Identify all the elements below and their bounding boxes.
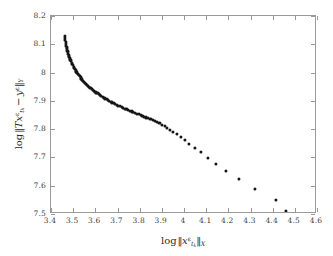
x-tick-label-4: 3.8 (132, 216, 145, 225)
y-axis-title-math: log‖Txεtk−yε‖Y (13, 79, 24, 150)
data-point (188, 142, 191, 145)
data-point (285, 209, 288, 212)
y-tick-label-1: 8.1 (33, 39, 46, 48)
x-tick-top-12 (317, 16, 318, 20)
data-point (183, 138, 186, 141)
x-tick-label-3: 3.7 (110, 216, 123, 225)
data-point (274, 198, 277, 201)
y-tick-label-6: 7.6 (33, 180, 46, 189)
x-tick-label-7: 4.1 (199, 216, 212, 225)
scatter-series-l-curve (51, 16, 315, 212)
x-tick-label-5: 3.9 (155, 216, 168, 225)
x-tick-label-0: 3.4 (44, 216, 57, 225)
y-tick-7 (51, 214, 55, 215)
x-tick-label-12: 4.6 (310, 216, 323, 225)
data-point (206, 156, 209, 159)
x-tick-12 (317, 208, 318, 212)
y-axis-title: log‖Txεtk−yε‖Y (7, 79, 26, 150)
data-point (224, 169, 227, 172)
y-tick-label-5: 7.7 (33, 152, 46, 161)
data-point (199, 151, 202, 154)
x-axis-title: log‖xεtk‖X (161, 229, 205, 248)
data-point (253, 187, 256, 190)
x-tick-label-9: 4.3 (243, 216, 256, 225)
x-tick-label-11: 4.5 (288, 216, 301, 225)
figure-canvas: 8.28.187.97.87.77.67.5 3.43.53.63.73.83.… (0, 0, 333, 256)
data-point (193, 146, 196, 149)
x-tick-label-2: 3.6 (88, 216, 101, 225)
y-tick-right-7 (311, 214, 315, 215)
y-tick-label-2: 8 (41, 67, 46, 76)
plot-area (50, 15, 316, 213)
x-tick-label-6: 4 (181, 216, 186, 225)
data-point (237, 177, 240, 180)
y-tick-label-0: 8.2 (33, 11, 46, 20)
x-axis-title-math: log‖xεtk‖X (161, 235, 205, 246)
x-tick-label-1: 3.5 (66, 216, 79, 225)
x-tick-label-8: 4.2 (221, 216, 234, 225)
y-tick-label-3: 7.9 (33, 95, 46, 104)
y-tick-label-4: 7.8 (33, 124, 46, 133)
x-tick-label-10: 4.4 (265, 216, 278, 225)
data-point (214, 162, 217, 165)
data-point (179, 135, 182, 138)
data-point (175, 133, 178, 136)
